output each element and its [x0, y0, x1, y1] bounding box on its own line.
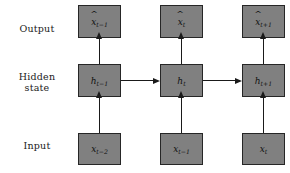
arrow-input-2-to-hidden-2 [263, 97, 264, 133]
node-input-2-subscript: t [265, 148, 268, 155]
arrow-hidden-1-to-output-1 [181, 38, 182, 64]
node-hidden-2-label: ht+1 [255, 76, 272, 86]
node-output-2-subscript: t+1 [260, 21, 272, 28]
node-input-0: xt−2 [78, 133, 121, 165]
node-output-0-subscript: t−1 [96, 21, 108, 28]
row-label-hidden-state: Hidden state [6, 71, 68, 93]
arrow-hidden-0-to-output-0 [99, 38, 100, 64]
symbol-h: h [91, 76, 97, 86]
node-input-2: xt [242, 133, 285, 165]
node-input-0-subscript: t−2 [96, 148, 108, 155]
arrow-input-1-to-hidden-1 [181, 97, 182, 133]
node-hidden-0-label: ht−1 [91, 76, 108, 86]
node-input-0-label: xt−2 [91, 144, 108, 154]
node-input-1-subscript: t−1 [178, 148, 190, 155]
node-hidden-0-subscript: t−1 [97, 80, 109, 87]
node-input-2-label: xt [260, 144, 268, 154]
symbol-h: h [255, 76, 261, 86]
node-output-2-label: xt+1 [255, 17, 272, 27]
node-input-1: xt−1 [160, 133, 203, 165]
node-hidden-2-subscript: t+1 [261, 80, 273, 87]
node-output-0-label: xt−1 [91, 17, 108, 27]
node-hidden-1-label: ht [177, 76, 185, 86]
caption-fragment [0, 169, 290, 173]
row-label-output: Output [6, 23, 68, 34]
arrow-hidden-0-to-hidden-1 [121, 80, 154, 81]
node-output-1-subscript: t [183, 21, 186, 28]
node-hidden-1-subscript: t [183, 80, 186, 87]
arrow-hidden-2-to-output-2 [263, 38, 264, 64]
node-input-1-label: xt−1 [173, 144, 190, 154]
arrow-hidden-1-to-hidden-2 [203, 80, 236, 81]
arrow-input-0-to-hidden-0 [99, 97, 100, 133]
node-output-1-label: xt [178, 17, 186, 27]
row-label-input: Input [6, 140, 68, 151]
rnn-unrolled-diagram: Output Hidden state Input xt−1 xt xt+1 h… [0, 0, 290, 173]
